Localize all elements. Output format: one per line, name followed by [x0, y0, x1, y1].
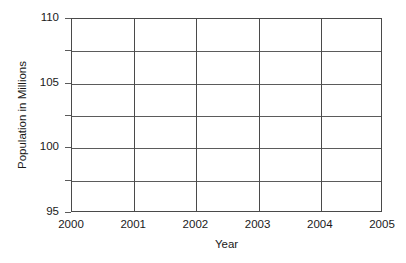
x-axis-title: Year — [71, 238, 382, 251]
y-axis-tick-label: 110 — [41, 12, 59, 24]
y-axis-tick — [65, 180, 71, 181]
y-axis-tick — [65, 115, 71, 116]
y-axis-title: Population in Millions — [14, 18, 30, 212]
plot-area — [71, 18, 382, 212]
x-axis-tick-label: 2005 — [369, 218, 395, 230]
x-axis-tick-label: 2003 — [245, 218, 271, 230]
gridline-vertical — [321, 19, 322, 211]
gridline-horizontal — [72, 51, 381, 52]
y-axis-tick — [65, 50, 71, 51]
gridline-horizontal — [72, 116, 381, 117]
x-axis-tick-label: 2004 — [307, 218, 333, 230]
clipped-header-text — [0, 0, 406, 2]
y-axis-tick-label: 105 — [40, 77, 59, 89]
gridline-horizontal — [72, 84, 381, 85]
gridline-vertical — [196, 19, 197, 211]
y-axis-tick — [65, 83, 71, 84]
y-axis-tick — [65, 18, 71, 19]
gridline-vertical — [134, 19, 135, 211]
x-axis-tick-label: 2001 — [120, 218, 146, 230]
y-axis-tick — [65, 212, 71, 213]
gridline-vertical — [259, 19, 260, 211]
chart-figure: 110 105 100 95 2000 2001 2002 2003 2004 … — [0, 0, 406, 263]
y-axis-tick-label: 100 — [40, 142, 59, 154]
gridline-horizontal — [72, 148, 381, 149]
x-axis-tick-label: 2002 — [183, 218, 209, 230]
gridline-horizontal — [72, 181, 381, 182]
y-axis-tick — [65, 147, 71, 148]
x-axis-tick-label: 2000 — [58, 218, 84, 230]
y-axis-tick-label: 95 — [46, 206, 59, 218]
